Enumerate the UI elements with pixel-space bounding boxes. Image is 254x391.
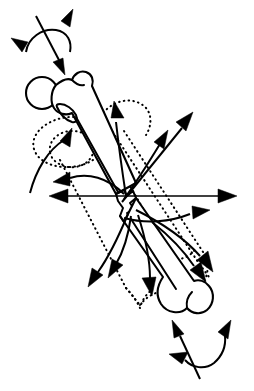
femur-force-diagram — [0, 0, 254, 391]
figure-root — [0, 0, 254, 391]
